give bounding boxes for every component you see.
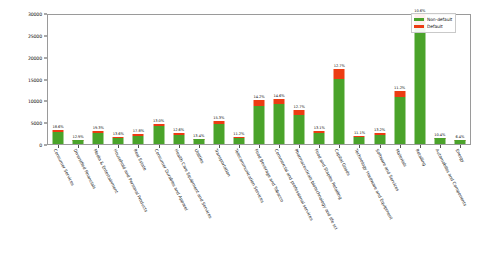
bar-value-label: 13.0%	[153, 119, 164, 123]
bar-group: 13.0%	[148, 15, 168, 144]
bar-segment-non-default	[213, 124, 224, 144]
y-axis: 050001000015000200002500030000	[0, 14, 47, 145]
bar-group: 12.7%	[289, 15, 309, 144]
bars-layer: 18.6%12.9%19.3%13.6%17.8%13.0%12.6%13.4%…	[48, 15, 470, 144]
bar-value-label: 13.6%	[113, 132, 124, 136]
bar-stack	[93, 131, 104, 144]
x-axis-tick-label: Commercial and professional services	[274, 148, 315, 221]
bar-group: 11.2%	[390, 15, 410, 144]
x-axis-tick-label: Retailing	[414, 148, 427, 167]
bar-group: 11.1%	[349, 15, 369, 144]
bar-segment-non-default	[253, 106, 264, 144]
bar-value-label: 14.6%	[274, 94, 285, 98]
y-axis-tick-label: 25000	[28, 33, 42, 38]
bar-group: 14.6%	[269, 15, 289, 144]
bar-value-label: 18.6%	[52, 125, 63, 129]
bar-segment-non-default	[133, 136, 144, 144]
bar-value-label: 12.7%	[294, 105, 305, 109]
bar-group: 11.2%	[229, 15, 249, 144]
bar-group: 15.3%	[209, 15, 229, 144]
bar-stack	[414, 14, 425, 144]
bar-group: 6.4%	[450, 15, 470, 144]
bar-segment-non-default	[454, 140, 465, 144]
bar-stack	[253, 100, 264, 144]
bar-stack	[274, 99, 285, 144]
bar-group: 12.6%	[169, 15, 189, 144]
bar-segment-non-default	[394, 97, 405, 144]
bar-group: 13.1%	[309, 15, 329, 144]
y-axis-tick-label: 30000	[28, 12, 42, 17]
bar-segment-non-default	[153, 126, 164, 144]
legend-item-default: Default	[414, 23, 452, 30]
bar-group: 18.6%	[48, 15, 68, 144]
x-axis-tick-label: Pharmaceuticals biotechnology and life s…	[294, 148, 339, 230]
x-axis-tick-label: Capital Goods	[334, 148, 352, 176]
bar-segment-non-default	[294, 115, 305, 144]
y-axis-tick-label: 0	[39, 143, 42, 148]
bar-value-label: 13.1%	[314, 126, 325, 130]
x-axis-tick-label: Real Estate	[133, 148, 148, 171]
bar-value-label: 6.4%	[455, 135, 464, 139]
bar-segment-non-default	[113, 138, 124, 144]
x-axis-tick-label: Health Care Equipment and Services	[173, 148, 213, 219]
bar-value-label: 13.2%	[374, 128, 385, 132]
y-axis-tick-label: 15000	[28, 77, 42, 82]
bar-group: 17.8%	[128, 15, 148, 144]
bar-stack	[354, 136, 365, 144]
bar-value-label: 17.8%	[133, 129, 144, 133]
bar-stack	[314, 131, 325, 144]
y-axis-tick-label: 5000	[31, 121, 42, 126]
bar-stack	[193, 139, 204, 144]
y-axis-tick-label: 20000	[28, 55, 42, 60]
bar-stack	[233, 137, 244, 144]
bar-segment-non-default	[334, 79, 345, 144]
bar-group: 19.3%	[88, 15, 108, 144]
bar-value-label: 12.6%	[173, 128, 184, 132]
bar-group: 13.6%	[108, 15, 128, 144]
bar-group: 12.9%	[68, 15, 88, 144]
y-axis-tick-label: 10000	[28, 99, 42, 104]
bar-value-label: 14.2%	[253, 95, 264, 99]
bar-group: 10.4%	[430, 15, 450, 144]
bar-stack	[173, 133, 184, 144]
bar-stack	[294, 110, 305, 144]
chart-legend: Non-default Default	[411, 13, 456, 33]
legend-swatch-non-default	[414, 18, 424, 21]
bar-segment-non-default	[354, 137, 365, 144]
x-axis-tick-label: Technology Hardware and Equipment	[354, 148, 394, 220]
bar-segment-non-default	[274, 104, 285, 144]
bar-value-label: 11.1%	[354, 131, 365, 135]
bar-stack	[153, 124, 164, 145]
bar-value-label: 19.3%	[93, 126, 104, 130]
bar-segment-non-default	[414, 24, 425, 144]
bar-segment-non-default	[53, 132, 64, 144]
x-axis-labels: Consumer ServicesDiversified FinancialsM…	[48, 148, 470, 258]
bar-segment-non-default	[314, 133, 325, 144]
bar-value-label: 11.2%	[394, 86, 405, 90]
bar-stack	[213, 121, 224, 144]
bar-stack	[113, 137, 124, 144]
bar-segment-non-default	[73, 140, 84, 144]
bar-stack	[53, 130, 64, 144]
bar-segment-non-default	[233, 138, 244, 144]
bar-segment-non-default	[374, 135, 385, 144]
x-axis-tick-label: Transportation	[213, 148, 231, 177]
stacked-bar-chart: 050001000015000200002500030000 18.6%12.9…	[0, 0, 479, 274]
x-axis-tick-label: Utilities	[193, 148, 205, 164]
bar-group: 13.2%	[370, 15, 390, 144]
x-axis-tick-label: Materials	[394, 148, 407, 167]
x-axis-tick-label: Diversified Financials	[73, 148, 98, 190]
bar-group: 10.6%	[410, 15, 430, 144]
legend-swatch-default	[414, 25, 424, 28]
bar-stack	[334, 69, 345, 144]
bar-stack	[73, 140, 84, 144]
legend-label-default: Default	[427, 24, 443, 29]
x-axis-tick-label: Energy	[454, 148, 465, 163]
x-axis-tick-label: Household and Personal Products	[113, 148, 149, 213]
legend-item-non-default: Non-default	[414, 16, 452, 23]
bar-group: 14.2%	[249, 15, 269, 144]
x-axis-tick-label: Consumer Services	[53, 148, 76, 186]
bar-stack	[454, 140, 465, 144]
bar-group: 12.7%	[329, 15, 349, 144]
bar-value-label: 11.2%	[233, 132, 244, 136]
